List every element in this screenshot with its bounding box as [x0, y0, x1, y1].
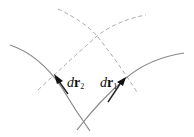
label-dr1: dr1: [100, 75, 117, 91]
arrow-dr2: [54, 74, 68, 94]
label-dr2-d: d: [67, 75, 74, 90]
diagram-canvas: dr2 dr1: [0, 0, 194, 137]
label-dr2-sub: 2: [80, 82, 84, 91]
label-dr1-d: d: [100, 75, 107, 90]
label-dr1-sub: 1: [113, 82, 117, 91]
dashed-curve-2: [38, 15, 146, 90]
diagram-svg: [0, 0, 194, 137]
solid-curve-right: [77, 53, 184, 130]
label-dr2: dr2: [67, 75, 84, 91]
